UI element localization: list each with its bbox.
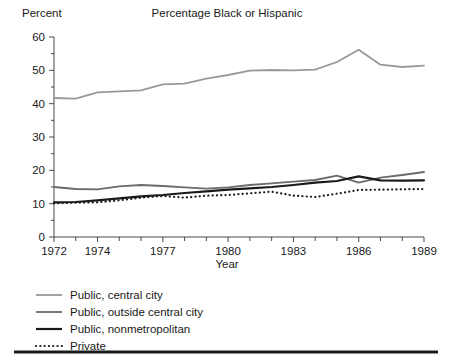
chart-figure: Percentage Black or Hispanic Percent Yea… (0, 0, 452, 364)
percentage-black-or-hispanic-line-chart: Percentage Black or Hispanic Percent Yea… (0, 0, 452, 364)
data-series-group (54, 50, 424, 204)
x-tick-label: 1980 (215, 245, 241, 257)
y-axis: 0102030405060 (32, 31, 54, 243)
x-tick-label: 1986 (346, 245, 372, 257)
legend-label-0: Public, central city (70, 289, 163, 301)
y-tick-label: 40 (32, 98, 45, 110)
legend-label-3: Private (70, 340, 106, 352)
y-tick-label: 30 (32, 131, 45, 143)
y-axis-label: Percent (22, 7, 62, 19)
series-line-0 (54, 50, 424, 99)
legend-label-2: Public, nonmetropolitan (70, 323, 190, 335)
x-tick-label: 1972 (41, 245, 67, 257)
x-tick-label: 1977 (150, 245, 176, 257)
y-tick-label: 50 (32, 64, 45, 76)
y-tick-label: 60 (32, 31, 45, 43)
y-tick-label: 10 (32, 198, 45, 210)
series-line-1 (54, 172, 424, 189)
y-tick-label: 0 (39, 231, 45, 243)
series-line-3 (54, 189, 424, 203)
legend-label-1: Public, outside central city (70, 306, 203, 318)
x-tick-label: 1983 (281, 245, 307, 257)
x-axis: 1972197419771980198319861989 (41, 237, 437, 257)
y-tick-label: 20 (32, 164, 45, 176)
chart-title: Percentage Black or Hispanic (152, 7, 303, 19)
x-tick-label: 1989 (411, 245, 437, 257)
chart-legend: Public, central cityPublic, outside cent… (36, 289, 203, 352)
x-tick-label: 1974 (85, 245, 111, 257)
x-axis-label: Year (215, 258, 238, 270)
